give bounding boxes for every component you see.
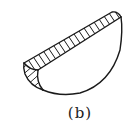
key-outline [24, 12, 122, 95]
end-cap-hatching [18, 54, 48, 94]
top-face-hatching [20, 1, 126, 76]
figure-caption: (b) [0, 104, 126, 122]
